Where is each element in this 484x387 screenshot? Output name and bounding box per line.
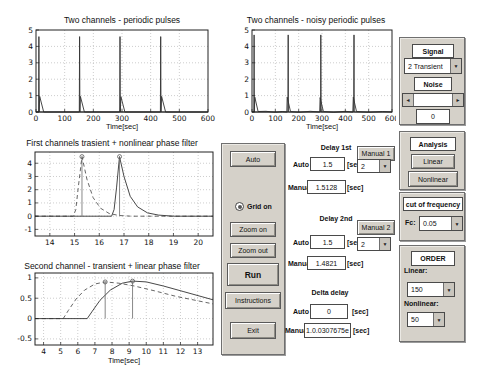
svg-text:2: 2 [27, 185, 32, 194]
svg-text:0: 0 [28, 108, 33, 117]
svg-text:3: 3 [244, 58, 249, 67]
delay1-manual-field[interactable]: 1.5128 [307, 180, 346, 194]
svg-text:1: 1 [244, 91, 249, 100]
svg-text:0: 0 [244, 108, 249, 117]
instructions-button[interactable]: Instructions [225, 292, 281, 309]
svg-text:1: 1 [27, 273, 32, 282]
chart-second-channel-filter: Second channel - transient + linear phas… [3, 260, 221, 384]
chevron-down-icon: ▼ [433, 313, 444, 326]
delta-title: Delta delay [300, 289, 360, 296]
delay1-select[interactable]: 2 ▼ [357, 159, 391, 173]
delta-auto-unit: [sec] [352, 308, 368, 315]
svg-text:5: 5 [58, 347, 63, 356]
order-linear-label: Linear: [404, 267, 427, 274]
chart-first-channel-filter: First channels trasient + nonlinear phas… [3, 136, 221, 254]
signal-select-value: 2 Transient [405, 59, 450, 73]
svg-text:-1: -1 [25, 225, 33, 234]
order-linear-value: 150 [408, 283, 443, 296]
delta-auto-field[interactable]: 0 [310, 304, 348, 319]
svg-text:0.5: 0.5 [20, 294, 32, 303]
svg-text:2: 2 [28, 75, 33, 84]
svg-text:4: 4 [27, 159, 32, 168]
delay2-auto-field[interactable]: 1.5 [310, 235, 345, 249]
svg-text:4: 4 [244, 42, 249, 51]
svg-text:0: 0 [27, 212, 32, 221]
fc-select[interactable]: 0.05 ▼ [419, 216, 463, 231]
noise-slider[interactable]: ◄ ► [402, 93, 464, 107]
svg-text:14: 14 [45, 238, 55, 247]
svg-text:1: 1 [27, 198, 32, 207]
svg-text:13: 13 [193, 347, 203, 356]
svg-text:2: 2 [244, 75, 249, 84]
linear-button[interactable]: Linear [411, 154, 455, 169]
order-nonlinear-label: Nonlinear: [404, 300, 439, 307]
analysis-panel: Analysis Linear Nonlinear [399, 131, 465, 190]
chevron-down-icon: ▼ [451, 217, 462, 230]
svg-text:0: 0 [27, 314, 32, 323]
svg-text:-0.5: -0.5 [17, 334, 32, 343]
exit-button[interactable]: Exit [230, 322, 276, 339]
svg-text:20: 20 [193, 238, 203, 247]
svg-text:7: 7 [93, 347, 98, 356]
noise-title: Noise [414, 77, 452, 91]
grid-on-radio[interactable]: Grid on [235, 202, 272, 211]
delay2-manual-field[interactable]: 1.4821 [307, 256, 346, 270]
radio-icon [235, 202, 244, 211]
slider-right-arrow-icon[interactable]: ► [452, 94, 463, 106]
chart-xlabel: Time[sec] [36, 122, 208, 131]
order-panel: ORDER Linear: 150 ▼ Nonlinear: 50 ▼ [399, 245, 465, 342]
delay2-select-value: 2 [358, 238, 379, 250]
noise-value-field[interactable]: 0 [416, 109, 450, 124]
svg-text:5: 5 [244, 26, 249, 35]
svg-text:19: 19 [169, 238, 179, 247]
svg-text:3: 3 [28, 58, 33, 67]
delta-manual-field[interactable]: 1.0.0307675e [304, 323, 351, 338]
chevron-down-icon: ▼ [443, 283, 454, 296]
chart-xlabel: Time[sec] [252, 122, 392, 131]
svg-text:15: 15 [70, 238, 80, 247]
delay1-auto-field[interactable]: 1.5 [310, 157, 345, 171]
delay1-select-value: 2 [358, 160, 379, 172]
svg-text:17: 17 [119, 238, 129, 247]
svg-text:18: 18 [144, 238, 154, 247]
svg-text:5: 5 [28, 26, 33, 35]
delta-auto-label: Auto [293, 308, 309, 315]
svg-text:11: 11 [159, 347, 169, 356]
svg-text:8: 8 [110, 347, 115, 356]
order-linear-select[interactable]: 150 ▼ [407, 282, 455, 297]
svg-text:3: 3 [27, 172, 32, 181]
zoom-on-button[interactable]: Zoom on [230, 222, 276, 237]
signal-panel: Signal 2 Transient ▼ Noise ◄ ► 0 [399, 37, 465, 125]
svg-text:4: 4 [41, 347, 46, 356]
chart-first-channel-filter-canvas: 14151617181920-101234 [3, 136, 221, 252]
manual2-button[interactable]: Manual 2 [357, 220, 395, 235]
slider-left-arrow-icon[interactable]: ◄ [403, 94, 414, 106]
slider-track[interactable] [414, 94, 452, 106]
chevron-down-icon: ▼ [379, 238, 390, 250]
svg-text:1: 1 [28, 91, 33, 100]
cutoff-panel: cut of frequency Fc: 0.05 ▼ [399, 192, 465, 241]
chart-noisy-periodic-pulses-canvas: 0100200300400500600012345 [236, 3, 396, 123]
chart-second-channel-filter-canvas: 45678910111213-0.500.51 [3, 260, 221, 358]
svg-text:10: 10 [141, 347, 151, 356]
cutoff-panel-title: cut of frequency [403, 197, 463, 211]
run-button[interactable]: Run [227, 263, 279, 286]
chart-periodic-pulses-canvas: 0100200300400500600012345 [3, 3, 218, 123]
signal-select[interactable]: 2 Transient ▼ [404, 58, 462, 74]
fc-label: Fc: [405, 219, 416, 226]
delay2-select[interactable]: 2 ▼ [357, 237, 391, 251]
delay1-manual-unit: [sec] [347, 184, 363, 191]
auto-button[interactable]: Auto [230, 151, 276, 167]
order-nonlinear-value: 50 [408, 313, 433, 326]
grid-on-label: Grid on [247, 203, 272, 210]
chevron-down-icon: ▼ [379, 160, 390, 172]
control-panel: Auto Grid on Zoom on Zoom out Run Instru… [221, 143, 285, 355]
svg-text:16: 16 [95, 238, 105, 247]
order-nonlinear-select[interactable]: 50 ▼ [407, 312, 445, 327]
delay2-manual-unit: [sec] [347, 260, 363, 267]
svg-text:4: 4 [28, 42, 33, 51]
zoom-out-button[interactable]: Zoom out [230, 243, 276, 258]
nonlinear-button[interactable]: Nonlinear [408, 171, 458, 187]
delta-manual-unit: [sec] [353, 327, 369, 334]
svg-text:12: 12 [176, 347, 186, 356]
